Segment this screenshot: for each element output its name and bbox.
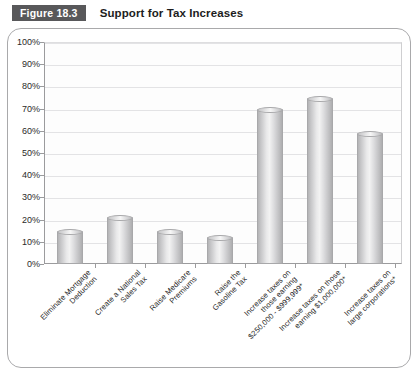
- x-axis-category-label: Create a National Sales Tax: [51, 268, 149, 366]
- bar-chart: 100%90%80%70%60%50%40%30%20%10%0% Elimin…: [0, 0, 420, 380]
- x-axis-category-label: Raise Medicare Premiums: [101, 268, 199, 366]
- x-axis: Eliminate Mortgage DeductionCreate a Nat…: [0, 0, 420, 380]
- x-axis-category-label: Increase taxes on large corporations*: [301, 268, 399, 366]
- x-axis-category-label: Eliminate Mortgage Deduction: [1, 268, 99, 366]
